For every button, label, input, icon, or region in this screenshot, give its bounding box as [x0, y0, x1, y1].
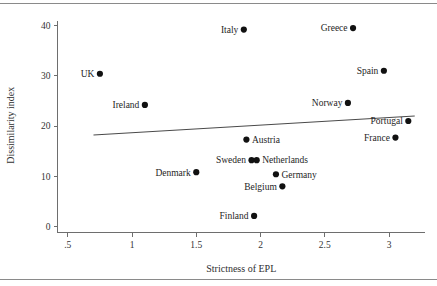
data-point[interactable]: Greece [321, 23, 356, 33]
point-label: Portugal [371, 116, 404, 126]
point-label: Germany [281, 170, 317, 180]
data-point[interactable]: Italy [221, 25, 247, 35]
point-marker[interactable] [251, 213, 257, 219]
point-marker[interactable] [345, 100, 351, 106]
data-point[interactable]: Netherlands [254, 155, 309, 165]
data-point[interactable]: Germany [273, 170, 317, 180]
data-point[interactable]: Portugal [371, 116, 412, 126]
point-label: Belgium [244, 182, 277, 192]
x-tick-label: 2.5 [319, 240, 331, 250]
point-marker[interactable] [142, 102, 148, 108]
point-label: Norway [312, 98, 343, 108]
point-marker[interactable] [350, 25, 356, 31]
x-tick-label: 3 [387, 240, 392, 250]
y-tick-label: 0 [46, 222, 51, 232]
point-marker[interactable] [97, 71, 103, 77]
point-label: Greece [321, 23, 348, 33]
data-points-group: ItalyGreeceUKSpainIrelandNorwayPortugalF… [81, 23, 412, 221]
point-marker[interactable] [241, 26, 247, 32]
point-marker[interactable] [279, 183, 285, 189]
point-marker[interactable] [392, 134, 398, 140]
x-tick-label: 2 [258, 240, 263, 250]
data-point[interactable]: Spain [357, 66, 387, 76]
point-marker[interactable] [193, 169, 199, 175]
point-label: Sweden [216, 155, 246, 165]
x-axis-title: Strictness of EPL [206, 263, 276, 274]
point-label: UK [81, 69, 95, 79]
data-point[interactable]: Austria [243, 135, 280, 145]
y-tick-label: 20 [41, 121, 51, 131]
x-tick-label: 1 [130, 240, 135, 250]
x-tick-label: .5 [64, 240, 71, 250]
figure-container: 010203040.511.522.53 ItalyGreeceUKSpainI… [0, 0, 437, 286]
data-point[interactable]: UK [81, 69, 103, 79]
data-point[interactable]: Sweden [216, 155, 255, 165]
point-marker[interactable] [405, 118, 411, 124]
y-tick-label: 30 [41, 71, 51, 81]
y-tick-label: 40 [41, 21, 51, 31]
x-tick-label: 1.5 [190, 240, 202, 250]
point-marker[interactable] [273, 171, 279, 177]
y-axis-title: Dissimilarity index [5, 87, 16, 164]
point-label: Italy [221, 25, 239, 35]
data-point[interactable]: Denmark [155, 168, 199, 178]
data-point[interactable]: Belgium [244, 182, 285, 192]
point-label: Austria [252, 135, 281, 145]
data-point[interactable]: Norway [312, 98, 351, 108]
point-label: Spain [357, 66, 379, 76]
point-label: Denmark [155, 168, 191, 178]
data-point[interactable]: France [364, 133, 398, 143]
data-point[interactable]: Finland [220, 211, 258, 221]
point-marker[interactable] [381, 68, 387, 74]
point-label: Netherlands [262, 155, 308, 165]
point-label: Ireland [112, 100, 139, 110]
point-label: Finland [220, 211, 249, 221]
point-label: France [364, 133, 390, 143]
scatter-plot: 010203040.511.522.53 ItalyGreeceUKSpainI… [0, 0, 437, 286]
y-tick-label: 10 [41, 172, 51, 182]
data-point[interactable]: Ireland [112, 100, 148, 110]
point-marker[interactable] [243, 136, 249, 142]
point-marker[interactable] [254, 157, 260, 163]
